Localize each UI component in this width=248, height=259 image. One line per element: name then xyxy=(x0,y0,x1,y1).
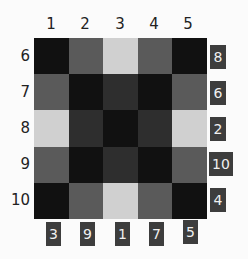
grid-cell-r2-c3[interactable] xyxy=(103,74,138,110)
grid-cell-r4-c2[interactable] xyxy=(69,147,104,183)
row-label-6: 6 xyxy=(0,38,30,74)
column-label-5: 5 xyxy=(171,15,205,33)
row-label-7: 7 xyxy=(0,74,30,110)
grid-cell-r2-c5[interactable] xyxy=(172,74,207,110)
grid-cell-r3-c4[interactable] xyxy=(138,110,173,146)
column-label-2: 2 xyxy=(68,15,102,33)
grid-cell-r4-c4[interactable] xyxy=(138,147,173,183)
column-label-1: 1 xyxy=(34,15,68,33)
badge-col-1: 3 xyxy=(46,222,61,246)
grid-cell-r1-c5[interactable] xyxy=(172,38,207,74)
grid-cell-r1-c1[interactable] xyxy=(34,38,69,74)
grid-cell-r4-c1[interactable] xyxy=(34,147,69,183)
badge-row-9: 10 xyxy=(209,152,233,176)
grid-cell-r3-c1[interactable] xyxy=(34,110,69,146)
grid-cell-r3-c2[interactable] xyxy=(69,110,104,146)
badge-col-3: 1 xyxy=(115,222,130,246)
grid-cell-r3-c5[interactable] xyxy=(172,110,207,146)
puzzle-grid xyxy=(34,38,207,219)
grid-cell-r5-c3[interactable] xyxy=(103,183,138,219)
grid-cell-r1-c4[interactable] xyxy=(138,38,173,74)
row-label-8: 8 xyxy=(0,110,30,146)
grid-cell-r5-c4[interactable] xyxy=(138,183,173,219)
grid-cell-r2-c2[interactable] xyxy=(69,74,104,110)
grid-cell-r5-c1[interactable] xyxy=(34,183,69,219)
row-label-10: 10 xyxy=(0,182,30,218)
grid-cell-r1-c2[interactable] xyxy=(69,38,104,74)
column-label-3: 3 xyxy=(103,15,137,33)
grid-cell-r4-c5[interactable] xyxy=(172,147,207,183)
grid-cell-r2-c1[interactable] xyxy=(34,74,69,110)
badge-row-7: 6 xyxy=(210,81,226,105)
badge-col-4: 7 xyxy=(149,222,164,246)
badge-row-10: 4 xyxy=(210,188,226,212)
badge-row-6: 8 xyxy=(210,45,226,69)
grid-cell-r1-c3[interactable] xyxy=(103,38,138,74)
row-label-9: 9 xyxy=(0,146,30,182)
grid-cell-r5-c2[interactable] xyxy=(69,183,104,219)
grid-cell-r3-c3[interactable] xyxy=(103,110,138,146)
grid-cell-r2-c4[interactable] xyxy=(138,74,173,110)
badge-row-8: 2 xyxy=(210,117,226,141)
grid-cell-r4-c3[interactable] xyxy=(103,147,138,183)
badge-col-5: 5 xyxy=(183,220,198,244)
grid-cell-r5-c5[interactable] xyxy=(172,183,207,219)
column-label-4: 4 xyxy=(137,15,171,33)
badge-col-2: 9 xyxy=(80,222,95,246)
